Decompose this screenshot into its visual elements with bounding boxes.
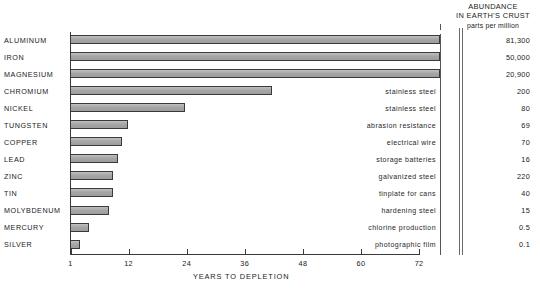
bar (70, 52, 440, 61)
abundance-value: 16 (466, 151, 530, 168)
chart-row: ZINCgalvanized steel220 (0, 168, 540, 185)
x-tick-label: 24 (182, 259, 191, 268)
chart-row: MAGNESIUM20,900 (0, 66, 540, 83)
chart-row: SILVERphotographic film0.1 (0, 236, 540, 253)
x-tick-label: 1 (68, 259, 72, 268)
metal-label: COPPER (4, 134, 66, 151)
metal-label: MAGNESIUM (4, 66, 66, 83)
bar (70, 188, 113, 197)
x-tick-mark (187, 249, 188, 255)
bar-container (70, 103, 185, 112)
use-label: abrasion resistance (367, 117, 436, 134)
x-tick-mark (419, 249, 420, 255)
metal-label: IRON (4, 49, 66, 66)
chart-row: TUNGSTENabrasion resistance69 (0, 117, 540, 134)
metal-label: ALUMINUM (4, 32, 66, 49)
abundance-header-line2: IN EARTH'S CRUST (448, 11, 538, 20)
x-tick-label: 36 (240, 259, 249, 268)
plot-right-border-top (440, 24, 441, 30)
use-label: galvanized steel (379, 168, 436, 185)
use-label: hardening steel (381, 202, 436, 219)
use-label: photographic film (375, 236, 436, 253)
chart-row: CHROMIUMstainless steel200 (0, 83, 540, 100)
chart-row: NICKELstainless steel80 (0, 100, 540, 117)
bar-container (70, 188, 113, 197)
bar-container (70, 206, 109, 215)
use-label: storage batteries (376, 151, 436, 168)
x-tick-label: 48 (298, 259, 307, 268)
abundance-value: 50,000 (466, 49, 530, 66)
chart-row: IRON50,000 (0, 49, 540, 66)
bar (70, 86, 272, 95)
use-label: electrical wire (387, 134, 436, 151)
bar-container (70, 240, 80, 249)
bar-container (70, 171, 113, 180)
bar-container (70, 69, 440, 78)
bar-container (70, 86, 272, 95)
use-label: stainless steel (385, 83, 436, 100)
use-label: tinplate for cans (379, 185, 436, 202)
abundance-value: 70 (466, 134, 530, 151)
chart-row: MERCURYchlorine production0.5 (0, 219, 540, 236)
use-label: stainless steel (385, 100, 436, 117)
abundance-column-header: ABUNDANCE IN EARTH'S CRUST parts per mil… (448, 2, 538, 30)
metal-label: CHROMIUM (4, 83, 66, 100)
x-tick-mark (129, 249, 130, 255)
bar (70, 103, 185, 112)
abundance-value: 69 (466, 117, 530, 134)
bar-container (70, 120, 128, 129)
bar (70, 171, 113, 180)
bar-container (70, 35, 440, 44)
bar (70, 69, 440, 78)
bar (70, 120, 128, 129)
metal-label: ZINC (4, 168, 66, 185)
metal-label: TUNGSTEN (4, 117, 66, 134)
abundance-value: 200 (466, 83, 530, 100)
x-tick-mark (303, 249, 304, 255)
bar-container (70, 154, 118, 163)
abundance-header-line1: ABUNDANCE (448, 2, 538, 11)
x-tick-label: 60 (357, 259, 366, 268)
chart-row: LEADstorage batteries16 (0, 151, 540, 168)
bar-container (70, 137, 122, 146)
bar (70, 223, 89, 232)
use-label: chlorine production (368, 219, 436, 236)
abundance-value: 80 (466, 100, 530, 117)
chart-row: ALUMINUM81,300 (0, 32, 540, 49)
bar-container (70, 223, 89, 232)
bar (70, 154, 118, 163)
metal-label: MERCURY (4, 219, 66, 236)
abundance-value: 81,300 (466, 32, 530, 49)
y-axis-line (70, 32, 71, 255)
abundance-value: 220 (466, 168, 530, 185)
bar-container (70, 52, 440, 61)
metal-label: TIN (4, 185, 66, 202)
x-tick-mark (71, 249, 72, 255)
bar (70, 206, 109, 215)
x-tick-label: 72 (415, 259, 424, 268)
bar (70, 137, 122, 146)
metal-label: MOLYBDENUM (4, 202, 66, 219)
depletion-abundance-chart: ABUNDANCE IN EARTH'S CRUST parts per mil… (0, 0, 540, 288)
abundance-value: 0.1 (466, 236, 530, 253)
metal-label: NICKEL (4, 100, 66, 117)
chart-row: COPPERelectrical wire70 (0, 134, 540, 151)
abundance-value: 0.5 (466, 219, 530, 236)
x-axis-title: YEARS TO DEPLETION (193, 272, 289, 281)
chart-row: MOLYBDENUMhardening steel15 (0, 202, 540, 219)
metal-label: LEAD (4, 151, 66, 168)
bar (70, 35, 440, 44)
abundance-value: 20,900 (466, 66, 530, 83)
bar (70, 240, 80, 249)
x-tick-label: 12 (124, 259, 133, 268)
abundance-value: 15 (466, 202, 530, 219)
x-tick-mark (361, 249, 362, 255)
abundance-value: 40 (466, 185, 530, 202)
x-tick-mark (245, 249, 246, 255)
metal-label: SILVER (4, 236, 66, 253)
chart-row: TINtinplate for cans40 (0, 185, 540, 202)
